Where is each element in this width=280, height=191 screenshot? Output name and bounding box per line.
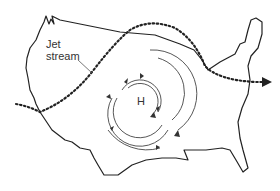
jet-stream-label-line1: Jet [46,38,80,50]
jet-stream-arrow-icon [262,77,272,87]
jet-stream-label: Jet stream [46,38,80,62]
weather-diagram: Jet stream H [0,0,280,191]
jet-stream-label-line2: stream [46,50,80,62]
high-pressure-label: H [137,96,145,107]
